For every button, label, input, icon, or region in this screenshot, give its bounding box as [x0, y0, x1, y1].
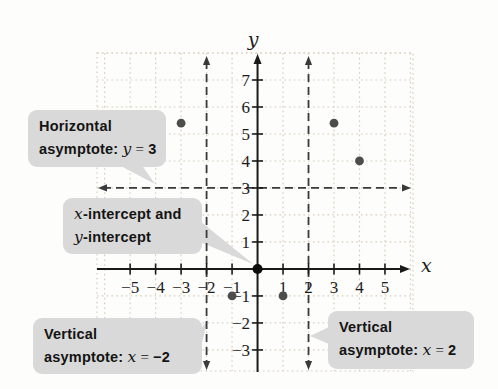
data-point	[355, 157, 364, 166]
y-tick-label: 7	[242, 71, 251, 90]
x-tick-label: 4	[355, 278, 364, 297]
data-point	[330, 119, 339, 128]
math-value: 2	[448, 342, 456, 358]
x-tick-label: −3	[172, 278, 190, 297]
math-variable: y	[123, 140, 132, 158]
callout-line: asymptote: y = 3	[39, 138, 155, 161]
math-equals: =	[132, 141, 149, 157]
data-point	[279, 292, 288, 301]
math-variable: x	[74, 205, 83, 223]
y-tick-label: 5	[242, 125, 251, 144]
y-tick-label: 3	[242, 179, 251, 198]
callout-line: y-intercept	[74, 226, 191, 249]
x-tick-label: −2	[198, 278, 216, 297]
y-tick-label: −2	[232, 314, 250, 333]
callout-text: Vertical	[44, 326, 97, 342]
callout-text: Horizontal	[39, 118, 112, 134]
x-axis-label: x	[421, 254, 432, 276]
math-equals: =	[137, 349, 154, 365]
intercept-point	[253, 264, 263, 274]
y-tick-label: 4	[242, 152, 251, 171]
callout-tail-vertical-right	[310, 327, 329, 344]
math-variable: y	[74, 228, 83, 246]
x-tick-label: −5	[121, 278, 139, 297]
y-tick-label: 2	[242, 206, 251, 225]
asymptote-arrow-left	[98, 184, 107, 191]
callout-text: Vertical	[339, 319, 392, 335]
callout-line: Horizontal	[39, 115, 155, 138]
callout-vertical-asymptote-left: Vertical asymptote: x = −2	[33, 318, 202, 374]
data-point	[228, 292, 237, 301]
callout-line: Vertical	[44, 323, 191, 346]
asymptote-arrow-up	[203, 56, 210, 65]
y-tick-label: −3	[232, 341, 250, 360]
asymptote-arrow-up	[305, 56, 312, 65]
callout-line: asymptote: x = −2	[44, 346, 191, 369]
callout-text: -intercept	[83, 229, 151, 245]
math-variable: x	[128, 348, 137, 366]
y-axis-arrow	[254, 54, 262, 64]
callout-line: asymptote: x = 2	[339, 339, 463, 362]
x-tick-label: 3	[330, 278, 339, 297]
math-equals: =	[432, 342, 449, 358]
callout-line: x-intercept and	[74, 203, 191, 226]
callout-intercepts: x-intercept and y-intercept	[63, 198, 202, 254]
asymptote-arrow-down	[203, 361, 210, 370]
callout-vertical-asymptote-right: Vertical asymptote: x = 2	[328, 311, 474, 369]
y-axis-label: y	[247, 28, 259, 50]
math-value: 3	[148, 141, 156, 157]
callout-text: asymptote:	[44, 349, 128, 365]
callout-text: asymptote:	[339, 342, 423, 358]
math-variable: x	[423, 341, 432, 359]
asymptote-arrow-down	[305, 361, 312, 370]
x-tick-label: 2	[304, 278, 313, 297]
data-point	[177, 119, 186, 128]
x-tick-label: −4	[147, 278, 166, 297]
callout-line: Vertical	[339, 316, 463, 339]
x-axis-arrow	[400, 265, 410, 273]
callout-tail-horizontal-asymptote	[117, 164, 155, 184]
figure-canvas: −5−4−3−2−112345−3−2−11234567xy Horizonta…	[0, 0, 498, 389]
asymptote-arrow-right	[402, 184, 411, 191]
y-tick-label: 6	[242, 98, 251, 117]
y-tick-label: 1	[242, 233, 251, 252]
x-tick-label: 5	[381, 278, 390, 297]
callout-horizontal-asymptote: Horizontal asymptote: y = 3	[28, 110, 166, 167]
math-value: −2	[153, 349, 170, 365]
callout-text: asymptote:	[39, 141, 123, 157]
callout-text: -intercept and	[83, 206, 182, 222]
